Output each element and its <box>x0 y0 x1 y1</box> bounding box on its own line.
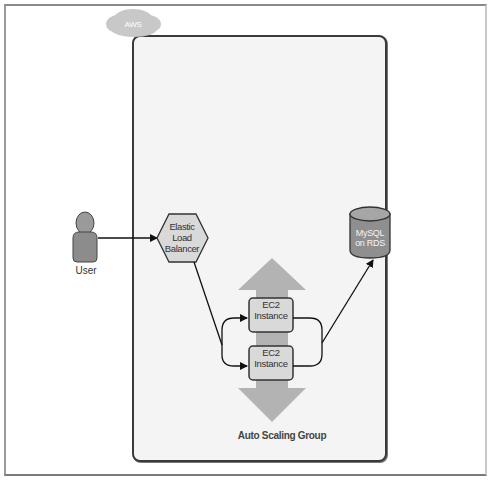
diagram-canvas <box>0 0 492 482</box>
aws-cloud-label: AWS <box>110 20 156 29</box>
database-label-line2: on RDS <box>349 238 391 248</box>
database-label: MySQL on RDS <box>349 228 391 249</box>
auto-scaling-group-label: Auto Scaling Group <box>222 430 342 442</box>
user-label: User <box>66 265 106 277</box>
elb-label: Elastic Load Balancer <box>158 222 206 255</box>
database-label-line1: MySQL <box>349 228 391 238</box>
ec2-2-label-line2: Instance <box>249 359 293 370</box>
elb-to-ec2-1-arrow <box>222 318 247 345</box>
ec2-instance-1-label: EC2 Instance <box>249 300 293 322</box>
user-icon <box>73 212 97 262</box>
elb-to-ec2-2-arrow <box>222 345 247 366</box>
elb-label-line3: Balancer <box>158 244 206 255</box>
ec2-to-rds-connector <box>322 260 373 343</box>
ec2-instance-2-label: EC2 Instance <box>249 348 293 370</box>
ec2-2-to-merge-connector <box>293 343 322 366</box>
auto-scaling-arrow-icon <box>238 258 306 422</box>
ec2-1-to-merge-connector <box>293 318 322 343</box>
elb-to-ec2-connector <box>194 262 222 345</box>
ec2-1-label-line2: Instance <box>249 311 293 322</box>
